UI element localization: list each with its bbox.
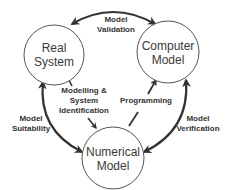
- numerical-model-label-line2: Model: [97, 159, 130, 173]
- computer-model-label-line2: Model: [152, 53, 185, 67]
- svg-text:Validation: Validation: [97, 25, 135, 34]
- svg-text:Programming: Programming: [120, 96, 172, 105]
- modelling-cycle-diagram: Real System Computer Model Numerical Mod…: [0, 0, 229, 190]
- real-system-label-line2: System: [34, 55, 74, 69]
- modelling-arrow: [88, 118, 96, 128]
- svg-text:Verification: Verification: [176, 124, 219, 133]
- model-suitability-label: Model Suitability: [12, 114, 51, 133]
- programming-arrow: [129, 112, 138, 126]
- node-numerical-model: Numerical Model: [82, 127, 144, 189]
- node-real-system: Real System: [24, 25, 84, 85]
- svg-text:Modelling &: Modelling &: [61, 86, 107, 95]
- programming-arrow-head: [148, 80, 156, 94]
- programming-label: Programming: [120, 96, 172, 105]
- svg-text:Identification: Identification: [59, 106, 109, 115]
- svg-text:Model: Model: [104, 15, 127, 24]
- real-system-label-line1: Real: [42, 41, 67, 55]
- node-computer-model: Computer Model: [137, 21, 199, 83]
- model-validation-label: Model Validation: [97, 15, 135, 34]
- svg-text:Model: Model: [186, 114, 209, 123]
- svg-text:System: System: [70, 96, 98, 105]
- model-verification-label: Model Verification: [176, 114, 219, 133]
- svg-text:Suitability: Suitability: [12, 124, 51, 133]
- svg-text:Model: Model: [19, 114, 42, 123]
- numerical-model-label-line1: Numerical: [86, 145, 140, 159]
- modelling-label: Modelling & System Identification: [59, 86, 109, 115]
- computer-model-label-line1: Computer: [142, 39, 195, 53]
